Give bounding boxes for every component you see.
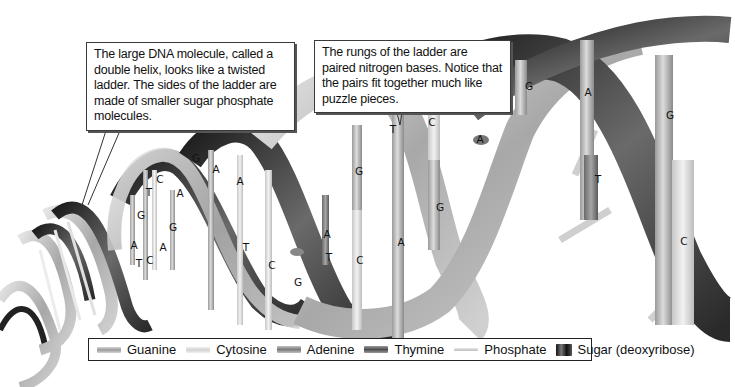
sugar-swatch-icon [556, 344, 572, 356]
base-label: C [268, 259, 275, 271]
dna-diagram: A T C A G T C A G G A A T C G A T G C T … [0, 0, 735, 387]
base-label: C [680, 235, 687, 247]
legend-label: Sugar (deoxyribose) [577, 342, 694, 357]
base-label: C [156, 173, 163, 185]
base-label: T [145, 186, 153, 198]
legend-item-sugar: Sugar (deoxyribose) [556, 342, 694, 357]
base-label: A [130, 239, 138, 251]
callout-double-helix: The large DNA molecule, called a double … [86, 42, 295, 131]
base-label: A [397, 236, 405, 248]
callout-text: The large DNA molecule, called a double … [94, 47, 276, 123]
base-label: T [325, 251, 333, 263]
legend-item-thymine: Thymine [364, 342, 444, 357]
legend-label: Thymine [394, 342, 444, 357]
legend-item-phosphate: Phosphate [454, 342, 546, 357]
legend-label: Cytosine [216, 342, 267, 357]
thymine-swatch-icon [364, 346, 388, 353]
base-label: G [355, 165, 363, 177]
base-label: T [242, 241, 250, 253]
legend-item-guanine: Guanine [97, 342, 176, 357]
base-label: G [294, 276, 302, 288]
legend-label: Adenine [307, 342, 355, 357]
legend: Guanine Cytosine Adenine Thymine Phospha… [88, 338, 592, 361]
legend-label: Phosphate [484, 342, 546, 357]
base-label: G [192, 152, 200, 164]
base-label: T [594, 173, 602, 185]
phosphate-swatch-icon [454, 348, 478, 351]
base-label: G [436, 201, 444, 213]
base-label: T [389, 123, 397, 135]
base-label: C [146, 254, 153, 266]
base-label: G [137, 209, 145, 221]
legend-label: Guanine [127, 342, 176, 357]
base-label: A [323, 228, 331, 240]
base-label: G [525, 80, 533, 92]
callout-nitrogen-bases: The rungs of the ladder are paired nitro… [314, 40, 511, 113]
base-label: A [176, 187, 184, 199]
base-label: A [236, 175, 244, 187]
base-label: A [212, 163, 220, 175]
base-label: C [356, 254, 363, 266]
guanine-swatch-icon [97, 347, 121, 353]
legend-item-cytosine: Cytosine [186, 342, 267, 357]
base-label: C [428, 116, 435, 128]
base-label: G [666, 109, 674, 121]
base-label: A [584, 86, 592, 98]
base-label: A [159, 241, 167, 253]
legend-item-adenine: Adenine [277, 342, 355, 357]
base-label: T [135, 257, 143, 269]
adenine-swatch-icon [277, 346, 301, 353]
base-label: A [476, 133, 484, 145]
callout-text: The rungs of the ladder are paired nitro… [322, 45, 502, 106]
cytosine-swatch-icon [186, 347, 210, 353]
base-label: G [169, 221, 177, 233]
